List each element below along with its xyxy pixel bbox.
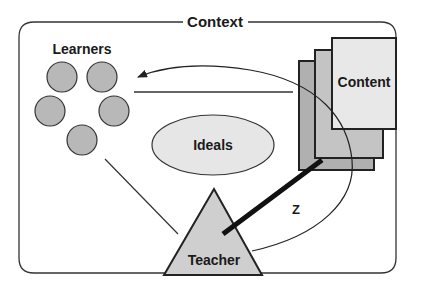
ideals-label: Ideals — [193, 137, 233, 153]
learner-circle — [99, 96, 129, 126]
content-label: Content — [338, 74, 391, 90]
learners-label: Learners — [52, 41, 111, 57]
learner-circle — [47, 62, 77, 92]
diagram-svg: Context Learners Content Ideals Teacher … — [0, 0, 428, 304]
z-link-label: Z — [292, 202, 300, 217]
teacher-label: Teacher — [188, 252, 241, 268]
diagram-canvas: Context Learners Content Ideals Teacher … — [0, 0, 428, 304]
learner-circle — [35, 96, 65, 126]
context-label: Context — [187, 13, 243, 30]
learner-circle — [67, 125, 97, 155]
learners-teacher-line — [105, 159, 178, 234]
learner-circle — [87, 62, 117, 92]
learners-group — [35, 62, 129, 155]
content-stack: Content — [299, 38, 396, 170]
